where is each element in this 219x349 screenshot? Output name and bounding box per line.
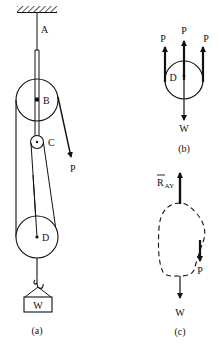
- label-b: B: [43, 95, 50, 106]
- label-c: C: [48, 137, 55, 148]
- svg-text:R: R: [157, 177, 164, 188]
- rope-pull-p: [58, 97, 71, 157]
- label-p-right-b: P: [203, 33, 209, 44]
- label-p-c: P: [197, 265, 203, 276]
- label-p-a: P: [70, 163, 76, 174]
- hook: [34, 258, 43, 288]
- pulley-b: [16, 79, 58, 121]
- svg-text:AY: AY: [165, 182, 174, 190]
- label-a: A: [41, 24, 49, 35]
- pulley-c: [31, 136, 44, 149]
- figure-a: A B C P D: [16, 6, 76, 337]
- weight-cable-left: [25, 287, 38, 297]
- label-p-center-b: P: [181, 25, 187, 36]
- caption-b: (b): [178, 143, 190, 155]
- figure-b: P P P D W (b): [160, 25, 209, 155]
- label-w-b: W: [179, 123, 189, 134]
- label-p-left-b: P: [160, 33, 166, 44]
- axle-d-b: [183, 75, 186, 78]
- caption-a: (a): [31, 325, 42, 337]
- figure-c: R AY P W (c): [157, 173, 205, 338]
- label-w-a: W: [33, 300, 43, 311]
- label-ray: R AY: [157, 175, 174, 190]
- label-d-a: D: [42, 232, 49, 243]
- weight-cable-right: [38, 287, 51, 297]
- ceiling-support: [17, 6, 57, 13]
- caption-c: (c): [174, 326, 185, 338]
- pulley-system-diagram: A B C P D: [0, 0, 219, 349]
- label-w-c: W: [175, 307, 185, 318]
- label-d-b: D: [169, 72, 176, 83]
- strap-rod: [35, 50, 39, 140]
